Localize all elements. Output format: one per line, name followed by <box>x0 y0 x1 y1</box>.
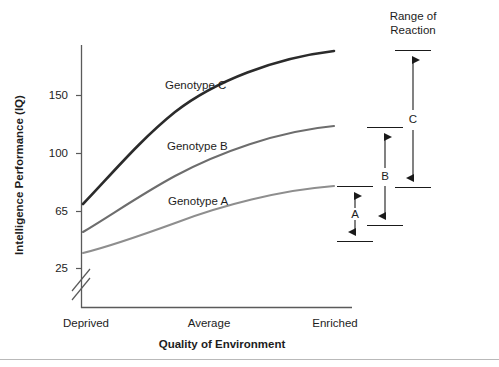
x-tick-label-deprived: Deprived <box>46 317 126 330</box>
y-tick-label-150: 150 <box>34 89 68 102</box>
curve-genotype-c <box>83 51 334 204</box>
y-tick-label-100: 100 <box>34 147 68 160</box>
x-axis-title: Quality of Environment <box>132 338 312 351</box>
bottom-divider <box>0 359 499 360</box>
series-label-genotype-a: Genotype A <box>168 195 228 208</box>
bracket-group-title-line2: Reaction <box>368 24 458 37</box>
figure-container: Intelligence Performance (IQ) 150 100 65… <box>0 0 499 367</box>
bracket-label-a: A <box>347 208 363 221</box>
y-tick-label-65: 65 <box>34 205 68 218</box>
bracket-label-b: B <box>377 170 393 183</box>
bracket-label-c: C <box>405 113 421 126</box>
series-label-genotype-b: Genotype B <box>167 140 228 153</box>
series-label-genotype-c: Genotype C <box>165 79 226 92</box>
y-axis-title-text: Intelligence Performance (IQ) <box>13 95 25 255</box>
y-tick-label-25: 25 <box>34 262 68 275</box>
bracket-group-title-line1: Range of <box>368 10 458 23</box>
x-tick-label-enriched: Enriched <box>295 317 375 330</box>
x-tick-label-average: Average <box>169 317 249 330</box>
chart-canvas <box>0 0 499 367</box>
y-axis-title: Intelligence Performance (IQ) <box>8 90 30 260</box>
